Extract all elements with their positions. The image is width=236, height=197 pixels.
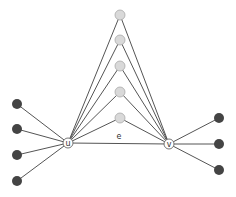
edge-v-top-4: [120, 118, 169, 144]
edge-v-top-0: [120, 15, 169, 144]
edge-u-left-1: [17, 129, 68, 143]
left-node-3: [12, 176, 22, 186]
edge-v-right-0: [169, 118, 219, 144]
left-node-2: [12, 150, 22, 160]
graph-svg: uv e: [0, 0, 236, 197]
left-node-1: [12, 124, 22, 134]
edge-v-top-2: [120, 66, 169, 144]
edge-u-top-0: [68, 15, 120, 143]
edge-label-e: e: [117, 132, 122, 141]
edge-e: [68, 143, 169, 144]
top-node-0: [115, 10, 125, 20]
nodes-layer: uv: [12, 10, 224, 186]
top-node-1: [115, 35, 125, 45]
node-label-v: v: [167, 140, 172, 149]
right-node-1: [214, 139, 224, 149]
top-node-2: [115, 61, 125, 71]
node-label-u: u: [65, 139, 70, 148]
edge-u-top-4: [68, 118, 120, 143]
edge-u-top-1: [68, 40, 120, 143]
top-node-4: [115, 113, 125, 123]
edge-u-top-2: [68, 66, 120, 143]
top-node-3: [115, 87, 125, 97]
edge-u-left-0: [17, 104, 68, 143]
left-node-0: [12, 99, 22, 109]
edge-v-top-3: [120, 92, 169, 144]
edge-u-top-3: [68, 92, 120, 143]
right-node-0: [214, 113, 224, 123]
graph-diagram: uv e: [0, 0, 236, 197]
edge-v-right-2: [169, 144, 219, 170]
right-node-2: [214, 165, 224, 175]
edge-v-top-1: [120, 40, 169, 144]
